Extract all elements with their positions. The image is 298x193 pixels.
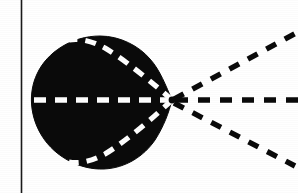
figure-canvas	[0, 0, 298, 193]
convergence-vertex-marker	[169, 97, 176, 104]
figure-drawing	[0, 0, 298, 193]
